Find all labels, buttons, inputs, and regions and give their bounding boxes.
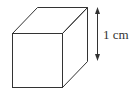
arrow-up-head-icon (95, 7, 100, 14)
dimension-arrow (95, 7, 100, 61)
cube-top-face (13, 8, 88, 34)
cube-diagram (0, 0, 135, 92)
cube-side-face (63, 8, 88, 88)
arrow-down-head-icon (95, 54, 100, 61)
cube-front-face (13, 34, 63, 88)
dimension-label: 1 cm (103, 27, 129, 43)
